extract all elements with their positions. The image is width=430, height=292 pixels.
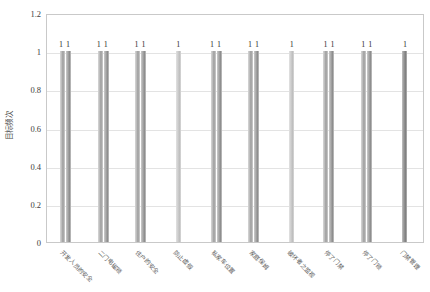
x-axis-label-cell: 家庭保姆 [235, 246, 273, 292]
bar [104, 51, 109, 242]
x-axis-label-cell: 二门电磁锁 [84, 246, 122, 292]
x-axis-label: 停了门锁 [361, 248, 384, 271]
bar-group [235, 15, 273, 242]
bar [141, 51, 146, 242]
bar [402, 51, 407, 242]
plot-area [46, 14, 424, 243]
y-axis-ticks: 1.210.80.60.40.20 [14, 0, 44, 250]
bar [248, 51, 253, 242]
bar-group [85, 15, 123, 242]
y-tick-label: 1 [37, 47, 41, 57]
x-axis-label: 住户的安全 [134, 248, 162, 276]
x-axis-label: 私家车位置 [210, 248, 238, 276]
bar [176, 51, 181, 242]
y-tick-label: 0.8 [30, 85, 41, 95]
x-axis-label-cell: 私家车位置 [197, 246, 235, 292]
x-axis-label: 二门电磁锁 [96, 248, 124, 276]
y-axis-title-text: 目标频次 [3, 111, 14, 140]
bar [329, 51, 334, 242]
x-axis-label-cell: 破坏者之监视 [273, 246, 311, 292]
bar-group [197, 15, 235, 242]
x-axis-label: 防止虚假 [172, 248, 195, 271]
x-axis-label-cell: 防止虚假 [159, 246, 197, 292]
y-tick-label: 0.6 [30, 124, 41, 134]
x-axis-label-cell: 门禁管理 [386, 246, 424, 292]
bar-chart: 目标频次 1.210.80.60.40.20 11111111111111111… [0, 0, 430, 292]
bar [98, 51, 103, 242]
y-tick-label: 0.4 [30, 162, 41, 172]
x-axis-label: 停了门禁 [323, 248, 346, 271]
bar-group [47, 15, 85, 242]
bar [367, 51, 372, 242]
bar [361, 51, 366, 242]
bar [60, 51, 65, 242]
y-tick-label: 0 [37, 238, 41, 248]
x-axis-label: 门禁管理 [399, 248, 422, 271]
bar-group [348, 15, 386, 242]
bar-group [385, 15, 423, 242]
bar [254, 51, 259, 242]
bars-layer [47, 15, 423, 242]
y-tick-label: 0.2 [30, 200, 41, 210]
x-axis-labels: 开发人员的安全二门电磁锁住户的安全防止虚假私家车位置家庭保姆破坏者之监视停了门禁… [46, 246, 424, 292]
bar [217, 51, 222, 242]
bar [66, 51, 71, 242]
bar-group [160, 15, 198, 242]
y-tick-label: 1.2 [30, 9, 41, 19]
bar [135, 51, 140, 242]
bar [323, 51, 328, 242]
x-axis-label-cell: 住户的安全 [122, 246, 160, 292]
bar-group [122, 15, 160, 242]
x-axis-label-cell: 停了门禁 [311, 246, 349, 292]
x-axis-label-cell: 开发人员的安全 [46, 246, 84, 292]
x-axis-label-cell: 停了门锁 [348, 246, 386, 292]
bar-group [273, 15, 311, 242]
bar [211, 51, 216, 242]
bar [289, 51, 294, 242]
x-axis-label: 家庭保姆 [248, 248, 271, 271]
bar-group [310, 15, 348, 242]
